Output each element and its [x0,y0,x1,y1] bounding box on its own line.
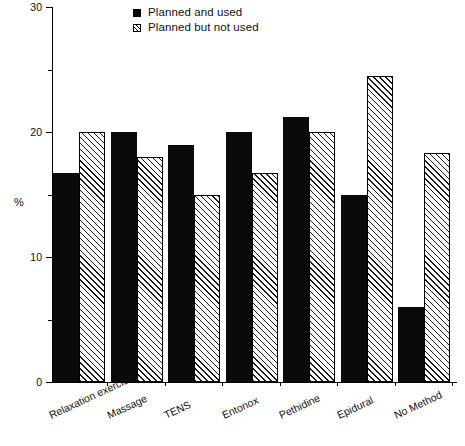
y-tick-label: 0 [0,377,42,388]
y-tick-minor-5 [48,320,52,321]
bar-pethidine-planned-but-not-used [309,132,335,382]
y-tick-30 [46,7,52,8]
bar-massage-planned-and-used [111,132,137,382]
bars-layer [53,7,457,382]
x-tick [395,382,396,386]
y-tick-0 [46,382,52,383]
y-tick-minor-15 [48,195,52,196]
bar-relaxation-exercises-planned-and-used [53,173,79,382]
x-axis-labels: Relaxation exercisesMassageTENSEntonoxPe… [0,388,465,446]
bar-no-method-planned-but-not-used [424,153,450,382]
x-label-massage: Massage [105,392,149,421]
bar-relaxation-exercises-planned-but-not-used [79,132,105,382]
bar-chart: Planned and used Planned but not used % … [0,0,465,446]
y-tick-20 [46,132,52,133]
bar-entonox-planned-but-not-used [252,173,278,382]
x-tick [337,382,338,386]
bar-entonox-planned-and-used [226,132,252,382]
x-label-entonox: Entonox [220,394,260,421]
bar-epidural-planned-and-used [341,195,367,383]
bar-massage-planned-but-not-used [137,157,163,382]
y-tick-label: 20 [0,127,42,138]
x-label-epidural: Epidural [335,394,375,421]
x-label-tens: TENS [162,398,192,421]
y-tick-10 [46,257,52,258]
bar-no-method-planned-and-used [398,307,424,382]
y-tick-label: 10 [0,252,42,263]
x-label-no-method: No Method [392,388,444,421]
x-tick [222,382,223,386]
y-axis-title: % [14,196,24,208]
y-tick-minor-25 [48,70,52,71]
x-tick [165,382,166,386]
x-label-pethidine: Pethidine [277,391,322,420]
bar-epidural-planned-but-not-used [367,76,393,382]
bar-tens-planned-and-used [168,145,194,383]
x-tick [280,382,281,386]
bar-tens-planned-but-not-used [194,195,220,383]
x-tick [452,382,453,386]
bar-pethidine-planned-and-used [283,117,309,382]
y-tick-label: 30 [0,2,42,13]
